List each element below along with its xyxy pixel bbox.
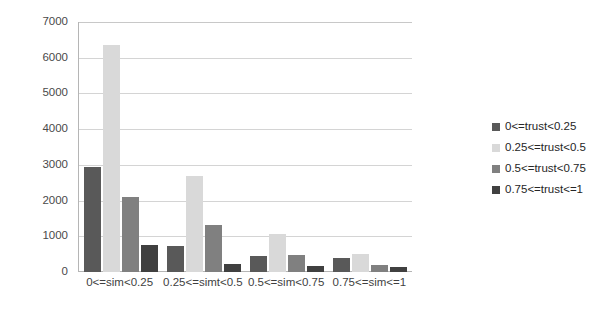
legend-swatch-icon: [492, 186, 500, 194]
legend-swatch-icon: [492, 165, 500, 173]
legend-item: 0.75<=trust<=1: [492, 179, 602, 200]
bar: [224, 264, 241, 272]
bar: [352, 254, 369, 272]
y-axis-labels: 70006000500040003000200010000: [0, 0, 72, 311]
bar: [269, 234, 286, 272]
bar: [103, 45, 120, 272]
y-axis-tick: 7000: [0, 16, 68, 28]
y-axis-tick: 2000: [0, 195, 68, 207]
bar: [250, 256, 267, 272]
x-axis-tick: 0.25<=simt<0.5: [161, 277, 244, 289]
bar-group: [329, 22, 412, 272]
bar: [307, 266, 324, 272]
bar: [390, 267, 407, 272]
legend-item: 0.5<=trust<0.75: [492, 158, 602, 179]
legend-item: 0<=trust<0.25: [492, 116, 602, 137]
bar: [186, 176, 203, 272]
bar: [205, 225, 222, 273]
legend-swatch-icon: [492, 144, 500, 152]
legend-label: 0.75<=trust<=1: [505, 184, 583, 196]
legend-swatch-icon: [492, 123, 500, 131]
bar-chart: 70006000500040003000200010000 0<=sim<0.2…: [0, 0, 602, 311]
bar: [141, 245, 158, 272]
y-axis-tick: 4000: [0, 123, 68, 135]
y-axis-tick: 3000: [0, 159, 68, 171]
legend-label: 0<=trust<0.25: [505, 121, 576, 133]
x-axis-tick: 0.5<=sim<0.75: [245, 277, 328, 289]
x-axis-tick: 0.75<=sim<=1: [328, 277, 411, 289]
y-axis-tick: 1000: [0, 230, 68, 242]
legend-label: 0.25<=trust<0.5: [505, 142, 586, 154]
legend-label: 0.5<=trust<0.75: [505, 163, 586, 175]
bar-group: [246, 22, 329, 272]
y-axis-tick: 5000: [0, 87, 68, 99]
bar: [122, 197, 139, 272]
bar-group: [79, 22, 162, 272]
bar: [371, 265, 388, 272]
bar-group: [162, 22, 245, 272]
bar-groups: [79, 22, 412, 272]
y-axis-tick: 0: [0, 266, 68, 278]
bar: [333, 258, 350, 272]
bar: [167, 246, 184, 272]
bar: [288, 255, 305, 273]
y-axis-tick: 6000: [0, 52, 68, 64]
legend: 0<=trust<0.250.25<=trust<0.50.5<=trust<0…: [492, 116, 602, 200]
bar: [84, 167, 101, 272]
x-axis-tick: 0<=sim<0.25: [78, 277, 161, 289]
legend-item: 0.25<=trust<0.5: [492, 137, 602, 158]
